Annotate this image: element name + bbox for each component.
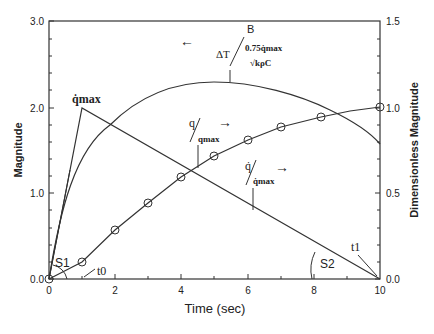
left-tick-0: 0.0 xyxy=(30,274,44,285)
x-tick-4: 4 xyxy=(178,285,184,296)
x-tick-2: 2 xyxy=(112,285,118,296)
label-t0: t0 xyxy=(97,264,106,278)
right-tick-1: 0.5 xyxy=(386,188,400,199)
left-tick-1: 1.0 xyxy=(30,188,44,199)
left-axis-title: Magnitude xyxy=(12,123,24,178)
label-s1: S1 xyxy=(55,256,70,270)
x-tick-0: 0 xyxy=(46,285,52,296)
label-dt-denominator: √kρC xyxy=(250,58,271,68)
chart: 0.0 1.0 2.0 3.0 0.0 0.5 1.0 1.5 0 2 4 6 … xyxy=(0,0,434,334)
label-q-numerator: q xyxy=(189,116,195,130)
x-tick-8: 8 xyxy=(311,285,317,296)
left-tick-2: 2.0 xyxy=(30,103,44,114)
series-q-markers xyxy=(45,103,384,283)
label-dt-prefix: ΔT xyxy=(216,48,230,60)
right-tick-3: 1.5 xyxy=(386,16,400,27)
panel-label: B xyxy=(247,23,254,35)
label-arrow-left-dt: ← xyxy=(180,34,194,49)
label-qdot-max: q̇max xyxy=(72,92,101,106)
right-tick-2: 1.0 xyxy=(386,103,400,114)
x-axis-title: Time (sec) xyxy=(185,301,246,316)
left-y-ticks xyxy=(49,21,54,279)
label-arrow-right-qd: → xyxy=(275,160,289,175)
label-q-denominator: qmax xyxy=(198,134,220,144)
label-s2: S2 xyxy=(320,257,335,271)
series-q-cumulative xyxy=(49,107,380,279)
t0-arrow xyxy=(84,269,95,277)
left-tick-3: 3.0 xyxy=(30,16,44,27)
label-dt-numerator: 0.75q̇max xyxy=(245,43,283,53)
plot-frame xyxy=(49,21,380,279)
t1-arrow xyxy=(358,255,377,276)
x-tick-10: 10 xyxy=(374,285,386,296)
label-t1: t1 xyxy=(351,240,360,254)
label-qd-numerator: q̇ xyxy=(245,159,251,173)
label-dt-slash xyxy=(230,37,244,66)
right-y-ticks xyxy=(375,39,380,279)
label-arrow-right-q: → xyxy=(218,115,232,130)
right-tick-0: 0.0 xyxy=(386,274,400,285)
label-qd-denominator: q̇max xyxy=(253,176,275,186)
x-tick-6: 6 xyxy=(245,285,251,296)
right-axis-title: Dimensionless Magnitude xyxy=(408,82,420,218)
x-ticks xyxy=(82,274,347,279)
series-delta-t xyxy=(49,82,380,279)
